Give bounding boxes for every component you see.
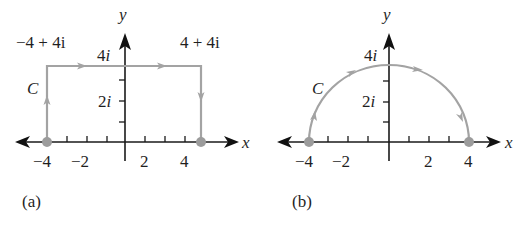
x-axis-label: x [504,133,513,152]
corner-label-top-right: 4 + 4i [180,33,220,52]
start-point [304,137,314,147]
y-axis-label: y [117,5,127,24]
direction-arrow-icon [456,112,463,122]
x-tick-label: −4 [33,152,52,171]
panel-b: C y x 4i 2i −4 −2 2 4 (b) [277,5,513,211]
figure-canvas: −4 + 4i 4 + 4i C y x 4i 2i −4 −2 2 4 (a) [0,0,524,235]
y-tick-label-2i: 2i [362,92,376,111]
y-ticks [119,80,125,122]
contour-c-rectangle [47,66,201,142]
corner-label-top-left: −4 + 4i [16,33,66,52]
y-axis-label: y [381,5,391,24]
x-tick-label: 2 [424,152,433,171]
contour-label: C [27,79,39,98]
x-tick-label: 4 [464,152,473,171]
panel-a: −4 + 4i 4 + 4i C y x 4i 2i −4 −2 2 4 (a) [15,5,250,211]
x-axis-label: x [241,133,250,152]
x-tick-label: 4 [180,152,189,171]
end-point [196,137,206,147]
x-tick-label: −2 [332,152,350,171]
x-tick-label: −4 [295,152,314,171]
y-tick-label-4i: 4i [97,46,111,65]
panel-caption-a: (a) [22,192,41,211]
x-tick-label: 2 [140,152,149,171]
y-ticks [383,81,389,122]
x-ticks [67,136,185,142]
start-point [42,137,52,147]
y-tick-label-2i: 2i [98,92,112,111]
y-tick-label-4i: 4i [364,46,378,65]
panel-caption-b: (b) [292,192,312,211]
contour-label: C [312,79,324,98]
x-tick-label: −2 [71,152,89,171]
end-point [464,137,474,147]
